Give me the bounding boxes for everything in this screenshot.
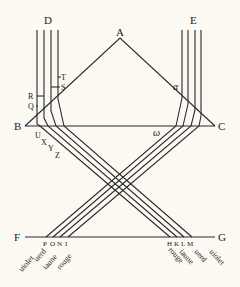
label-q: Q (28, 102, 34, 111)
label-x: X (41, 138, 47, 147)
label-d: D (44, 14, 52, 26)
label-s: S (61, 83, 65, 92)
label-n: N (57, 240, 62, 248)
color-right-uerd: uerd (193, 247, 209, 264)
label-f: F (14, 231, 20, 243)
label-alpha: α (173, 81, 179, 92)
right-ray-1 (46, 30, 182, 237)
color-right-uiolet: uiolet (208, 247, 227, 267)
label-omega: ω (153, 127, 160, 138)
label-g: G (218, 231, 226, 243)
label-z: Z (55, 151, 60, 160)
label-a: A (116, 26, 124, 38)
right-ray-4 (68, 30, 201, 237)
label-y: Y (48, 144, 54, 153)
left-ray-4 (58, 30, 192, 237)
label-m: M (187, 240, 194, 248)
label-p: P (43, 240, 47, 248)
left-ray-3 (51, 30, 184, 237)
label-c: C (218, 120, 225, 132)
label-i: I (65, 240, 68, 248)
label-o: O (50, 240, 55, 248)
label-b: B (14, 120, 21, 132)
label-t: T (61, 73, 66, 82)
prism-diagram: A B C D E F G α ω T S R Q U X Y Z P O N … (0, 0, 240, 287)
label-r: R (28, 92, 34, 101)
label-e: E (190, 14, 197, 26)
color-left-rouge: rouge (55, 251, 74, 271)
